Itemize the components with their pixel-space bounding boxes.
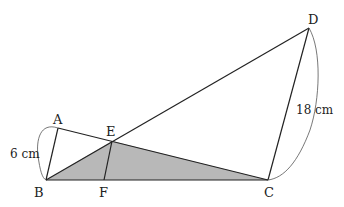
point-label-d: D: [308, 12, 318, 27]
point-label-c: C: [264, 185, 274, 200]
point-label-a: A: [52, 112, 63, 127]
point-label-b: B: [34, 185, 44, 200]
point-label-f: F: [99, 185, 108, 200]
measurement-ab: 6 cm: [10, 147, 40, 161]
point-label-e: E: [106, 124, 116, 139]
segment-ab: [46, 128, 58, 180]
measurement-cd: 18 cm: [296, 103, 334, 117]
geometry-diagram: 6 cm 18 cm A B C D E F: [0, 0, 344, 207]
